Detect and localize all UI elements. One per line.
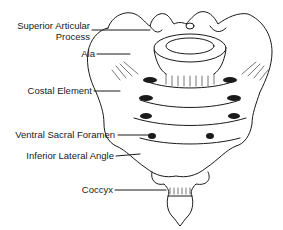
label-ala: Ala bbox=[81, 48, 95, 59]
label-superior-articular-line1: Superior Articular bbox=[17, 20, 90, 31]
label-costal-element: Costal Element bbox=[28, 85, 92, 96]
label-ventral-sacral-foramen: Ventral Sacral Foramen bbox=[15, 129, 115, 140]
label-coccyx: Coccyx bbox=[82, 184, 113, 195]
sacrum-diagram: Superior Articular Process Ala Costal El… bbox=[0, 0, 283, 230]
label-inferior-lateral-angle: Inferior Lateral Angle bbox=[26, 150, 114, 161]
label-superior-articular-process: Superior Articular Process bbox=[17, 20, 90, 42]
label-superior-articular-line2: Process bbox=[17, 31, 90, 42]
